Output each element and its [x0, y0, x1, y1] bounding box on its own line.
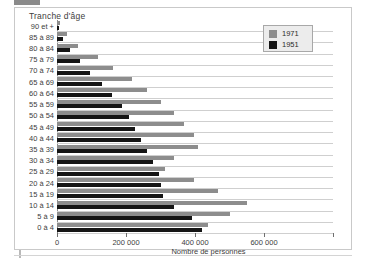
- y-tick-label: 85 à 89: [29, 32, 54, 41]
- bar-1971-60-à-64: [57, 88, 147, 92]
- bar-1971-20-à-24: [57, 178, 194, 182]
- bar-1951-70-à-74: [57, 71, 90, 75]
- x-tick-label: 600 000: [250, 238, 277, 247]
- y-tick-label: 25 à 29: [29, 167, 54, 176]
- y-tick-label: 15 à 19: [29, 189, 54, 198]
- x-tick-label: 200 000: [112, 238, 139, 247]
- bar-1971-90-et-+: [57, 21, 60, 25]
- x-tick: [126, 233, 127, 237]
- y-tick-label: 50 à 54: [29, 111, 54, 120]
- y-tick-label: 20 à 24: [29, 178, 54, 187]
- y-tick-label: 70 à 74: [29, 66, 54, 75]
- x-tick-end: [333, 233, 334, 237]
- bar-1971-0-à-4: [57, 223, 208, 227]
- legend-entry-1971: 1971: [269, 29, 299, 39]
- bar-1951-30-à-34: [57, 160, 153, 164]
- y-tick-label: 35 à 39: [29, 144, 54, 153]
- bar-1971-25-à-29: [57, 167, 165, 171]
- bar-1951-0-à-4: [57, 228, 202, 232]
- bar-1951-85-à-89: [57, 37, 63, 41]
- bar-1951-5-à-9: [57, 216, 192, 220]
- bar-1951-40-à-44: [57, 138, 141, 142]
- legend-label-1971: 1971: [282, 30, 299, 38]
- legend-entry-1951: 1951: [269, 40, 299, 50]
- legend-swatch-1971: [269, 30, 277, 38]
- gridline: [57, 54, 333, 55]
- bar-1971-40-à-44: [57, 133, 194, 137]
- y-tick-label: 55 à 59: [29, 100, 54, 109]
- bar-1951-75-à-79: [57, 59, 80, 63]
- x-tick: [57, 233, 58, 237]
- y-tick-label: 80 à 84: [29, 44, 54, 53]
- bar-1951-15-à-19: [57, 194, 163, 198]
- bar-1971-45-à-49: [57, 122, 184, 126]
- y-tick-label: 45 à 49: [29, 122, 54, 131]
- bar-1951-45-à-49: [57, 127, 135, 131]
- page-root: Tranche d'âge 90 et +85 à 8980 à 8475 à …: [0, 0, 367, 262]
- y-tick-label: 0 à 4: [37, 223, 54, 232]
- bar-1971-70-à-74: [57, 66, 113, 70]
- x-tick-label: 400 000: [181, 238, 208, 247]
- bar-1971-35-à-39: [57, 145, 198, 149]
- bar-1971-5-à-9: [57, 212, 230, 216]
- bar-1951-35-à-39: [57, 149, 147, 153]
- bar-1951-80-à-84: [57, 48, 70, 52]
- bar-1971-30-à-34: [57, 156, 174, 160]
- bar-1951-20-à-24: [57, 183, 161, 187]
- y-tick-label: 10 à 14: [29, 200, 54, 209]
- bar-1971-65-à-69: [57, 77, 132, 81]
- legend-swatch-1951: [269, 41, 277, 49]
- bar-1951-50-à-54: [57, 115, 129, 119]
- y-axis-category-labels: 90 et +85 à 8980 à 8475 à 7970 à 7465 à …: [0, 0, 54, 262]
- bar-1971-85-à-89: [57, 32, 67, 36]
- bar-1971-10-à-14: [57, 201, 247, 205]
- bar-1951-65-à-69: [57, 82, 102, 86]
- bar-1951-60-à-64: [57, 93, 112, 97]
- y-tick-label: 30 à 34: [29, 156, 54, 165]
- y-tick-label: 90 et +: [31, 21, 54, 30]
- bar-1971-55-à-59: [57, 100, 161, 104]
- y-tick-label: 40 à 44: [29, 133, 54, 142]
- bar-1971-50-à-54: [57, 111, 174, 115]
- bar-1951-90-et-+: [57, 26, 59, 30]
- bar-1971-75-à-79: [57, 55, 98, 59]
- bar-1951-10-à-14: [57, 205, 174, 209]
- legend-label-1951: 1951: [282, 41, 299, 49]
- bar-1971-80-à-84: [57, 44, 78, 48]
- bar-1951-25-à-29: [57, 172, 159, 176]
- bar-1971-15-à-19: [57, 189, 218, 193]
- y-tick-label: 75 à 79: [29, 55, 54, 64]
- y-tick-label: 5 à 9: [37, 212, 54, 221]
- x-tick: [264, 233, 265, 237]
- bar-1951-55-à-59: [57, 104, 122, 108]
- population-bar-chart: Tranche d'âge 90 et +85 à 8980 à 8475 à …: [0, 0, 367, 262]
- x-tick-label: 0: [55, 238, 59, 247]
- chart-legend: 1971 1951: [263, 25, 313, 52]
- y-tick-label: 65 à 69: [29, 77, 54, 86]
- x-axis-title: Nombre de personnes: [0, 247, 367, 256]
- y-tick-label: 60 à 64: [29, 88, 54, 97]
- x-tick: [195, 233, 196, 237]
